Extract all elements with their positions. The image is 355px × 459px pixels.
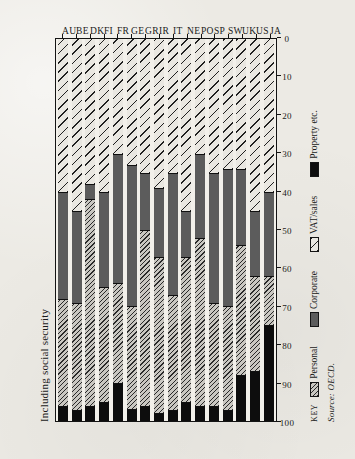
category-label-au: AU [57,16,67,38]
axis-tick-mark [277,37,281,38]
bar-segment [250,39,260,211]
bar-segment [250,275,260,371]
bar-segment [263,275,273,325]
bar-segment [167,409,177,420]
category-label-sw: SW [223,16,233,38]
axis-tick-mark [277,267,281,268]
bar-segment [181,401,191,420]
category-label-uk: UK [237,16,247,38]
bar-segment [112,39,122,154]
category-label-us: US [251,16,261,38]
bar-segment [236,39,246,169]
axis-tick-label: 80 [282,341,292,351]
bar-segment [71,302,81,409]
bar-row [181,39,191,421]
bar-segment [140,405,150,420]
axis-tick-mark [277,382,281,383]
bar-segment [181,39,191,211]
bar-segment [140,172,150,229]
bar-segment [263,325,273,421]
axis-tick-mark [277,190,281,191]
bar-row [236,39,246,421]
bar-segment [263,191,273,275]
axis-tick-label: 40 [282,187,292,197]
value-axis: 0102030405060708090100 [277,38,303,422]
axis-tick-mark [277,229,281,230]
bar-segment [71,210,81,302]
bar-row [167,39,177,421]
bar-segment [126,409,136,420]
bar-row [71,39,81,421]
bar-segment [195,39,205,154]
legend-label: Corporate [309,271,319,309]
bar-row [154,39,164,421]
bar-segment [58,191,68,298]
bar-segment [154,413,164,421]
axis-tick-label: 20 [282,110,292,120]
axis-tick-mark [277,113,281,114]
source-note: Source: OECD. [326,362,336,421]
axis-tick-mark [277,344,281,345]
category-label-fi: FI [98,16,108,38]
bar-row [99,39,109,421]
legend-item: VAT/sales [309,195,319,251]
bar-row [85,39,95,421]
bar-segment [195,153,205,237]
bar-row [195,39,205,421]
axis-tick-mark [277,305,281,306]
bar-row [112,39,122,421]
plot-note-label: Including social security [38,308,50,421]
bar-segment [58,405,68,420]
bar-row [222,39,232,421]
legend-item: Property etc. [309,110,319,177]
bar-segment [236,168,246,244]
legend-item: Personal [309,346,319,397]
legend-swatch-icon [309,381,318,396]
bar-segment [126,39,136,165]
bar-segment [85,199,95,405]
legend-label: VAT/sales [309,195,319,233]
bar-segment [140,229,150,405]
category-label-dk: DK [84,16,94,38]
bar-segment [222,306,232,409]
bar-segment [250,371,260,421]
bar-segment [222,168,232,306]
legend-swatch-icon [309,237,318,252]
plot-area [55,38,277,422]
bar-row [140,39,150,421]
bar-segment [85,39,95,184]
bar-segment [154,187,164,256]
bar-segment [236,375,246,421]
bar-segment [140,39,150,173]
axis-tick-label: 0 [284,34,289,44]
bar-segment [208,39,218,173]
axis-tick-label: 10 [282,72,292,82]
bar-segment [222,409,232,420]
bar-segment [195,237,205,405]
bar-segment [99,39,109,192]
bar-segment [85,184,95,199]
bar-segment [263,39,273,192]
category-label-po: PO [195,16,205,38]
legend-swatch-icon [309,161,318,176]
legend-item: Corporate [309,271,319,327]
bar-row [250,39,260,421]
bar-segment [126,306,136,409]
legend-label: Personal [309,346,319,379]
category-label-sp: SP [209,16,219,38]
bar-segment [236,245,246,375]
bar-segment [99,191,109,287]
stacked-bars-container [56,39,276,421]
category-label-text: FI [103,26,112,36]
bar-segment [71,39,81,211]
axis-tick-mark [277,152,281,153]
axis-tick-label: 70 [282,302,292,312]
category-label-ge: GE [126,16,136,38]
bar-segment [208,405,218,420]
axis-tick-label: 50 [282,226,292,236]
bar-segment [112,153,122,283]
axis-tick-mark [277,75,281,76]
bar-segment [181,210,191,256]
bar-segment [208,302,218,405]
bar-segment [181,256,191,401]
